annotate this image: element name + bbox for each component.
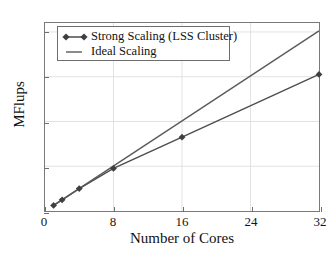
x-tick-label: 8 [110, 214, 117, 229]
data-point-marker [179, 134, 186, 141]
x-tick-label: 16 [176, 214, 189, 229]
x-tick-label: 32 [314, 214, 327, 229]
y-axis-title: MFlups [11, 45, 28, 165]
y-tick-mark [44, 32, 49, 33]
x-tick-mark [114, 207, 115, 212]
y-tick-mark [44, 123, 49, 124]
x-tick-label: 24 [245, 214, 258, 229]
legend-item-strong-scaling: Strong Scaling (LSS Cluster) [62, 29, 225, 44]
x-tick-mark [321, 207, 322, 212]
series-line [54, 74, 319, 205]
legend-label: Ideal Scaling [91, 45, 157, 58]
y-tick-mark [44, 168, 49, 169]
legend-marker-diamond-line-icon [62, 31, 88, 43]
x-tick-mark [183, 207, 184, 212]
chart-figure: 08162432 020406080 Number of Cores MFlup… [0, 0, 336, 257]
legend-item-ideal-scaling: Ideal Scaling [62, 44, 225, 59]
legend-line-icon [62, 46, 88, 58]
data-point-marker [110, 165, 117, 172]
legend-label: Strong Scaling (LSS Cluster) [91, 30, 237, 43]
data-point-marker [316, 71, 323, 78]
x-axis-title: Number of Cores [44, 230, 320, 247]
x-tick-label: 0 [41, 214, 48, 229]
y-tick-mark [44, 77, 49, 78]
chart-legend: Strong Scaling (LSS Cluster) Ideal Scali… [57, 26, 230, 61]
x-tick-mark [252, 207, 253, 212]
x-tick-mark [45, 207, 46, 212]
